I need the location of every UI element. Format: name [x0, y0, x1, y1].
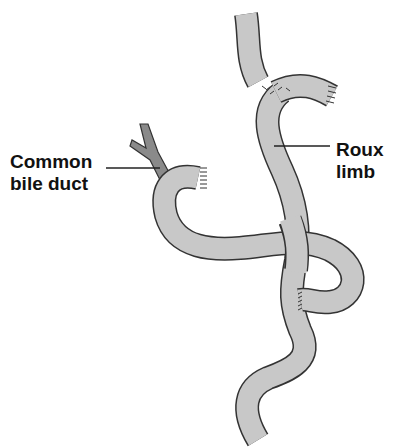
label-line: bile duct — [10, 173, 92, 195]
label-line: Common — [10, 151, 92, 173]
diagram-canvas: Common bile duct Roux limb — [0, 0, 394, 448]
label-line: Roux — [336, 139, 384, 161]
anatomy-illustration — [0, 0, 394, 448]
label-line: limb — [336, 161, 384, 183]
proximal-jejunum — [246, 14, 258, 82]
roux-blind-end — [276, 86, 332, 96]
label-common-bile-duct: Common bile duct — [10, 151, 92, 195]
hepaticojejunostomy-loop — [164, 177, 352, 303]
label-roux-limb: Roux limb — [336, 139, 384, 183]
